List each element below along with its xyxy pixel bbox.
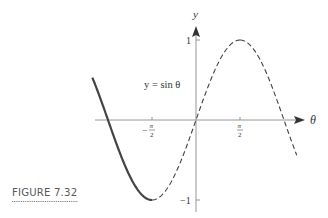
x-tick-label-neg-pi-half-num: π [150, 122, 154, 130]
figure-caption: FIGURE 7.32 [12, 186, 77, 202]
y-tick-label-neg-one: −1 [180, 195, 191, 206]
curve-restricted-solid [92, 78, 152, 200]
y-axis-label: y [192, 8, 198, 20]
curve-right-dashed [240, 40, 297, 155]
x-tick-label-neg-pi-half-sign: − [142, 125, 147, 135]
x-tick-label-neg-pi-half-den: 2 [150, 131, 154, 139]
curve-label: y = sin θ [144, 79, 180, 90]
x-tick-label-pi-half-num: π [238, 122, 242, 130]
y-tick-label-one: 1 [186, 35, 191, 46]
x-axis-label: θ [310, 113, 316, 127]
x-tick-label-pi-half-den: 2 [238, 131, 242, 139]
